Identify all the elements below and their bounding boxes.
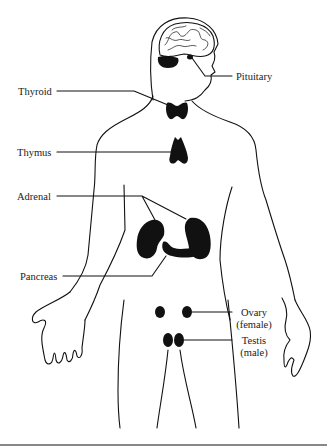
adrenal-label: Adrenal: [17, 191, 51, 202]
ovary-note: (female): [236, 319, 272, 330]
right-hand: [282, 298, 311, 376]
thymus-gland: [169, 137, 188, 164]
brain-outline: [159, 23, 214, 57]
torso-right-outline: [192, 101, 295, 300]
thyroid-leader: [57, 91, 168, 105]
right-arm-inner: [220, 187, 232, 320]
testis-left: [163, 333, 173, 347]
left-hand: [32, 292, 85, 364]
bottom-rule: [0, 444, 327, 446]
adrenal-kidney-left: [137, 220, 165, 259]
pituitary-label: Pituitary: [236, 71, 272, 82]
cerebellum-shape: [158, 56, 179, 68]
testis-right: [174, 333, 184, 347]
left-arm-inner: [85, 185, 125, 320]
left-leg-inner: [157, 350, 168, 428]
right-leg-inner: [180, 350, 196, 428]
adrenal-leader: [57, 196, 186, 220]
endocrine-diagram: Pituitary Thyroid Thymus Adrenal Pancrea…: [0, 0, 327, 448]
thymus-label: Thymus: [17, 147, 51, 158]
body-outline-figure: [0, 0, 327, 448]
thyroid-label: Thyroid: [18, 86, 52, 97]
testis-note: (male): [236, 347, 272, 358]
brain-gyri: [165, 26, 210, 50]
ovary-label: Ovary: [236, 307, 272, 318]
thyroid-gland: [166, 103, 188, 120]
pancreas-label: Pancreas: [20, 271, 57, 282]
ovary-left: [155, 306, 165, 318]
left-leg-outer: [118, 300, 124, 428]
pituitary-gland: [187, 55, 193, 60]
pancreas-leader: [63, 256, 166, 276]
ovary-right: [182, 306, 192, 318]
testis-label: Testis: [236, 335, 272, 346]
